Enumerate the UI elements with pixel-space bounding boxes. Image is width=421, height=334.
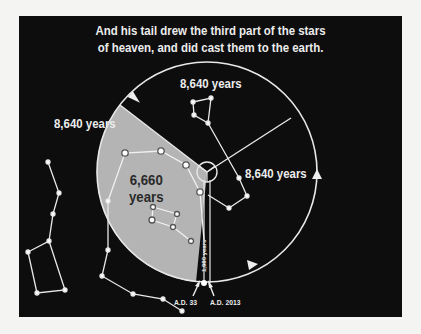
label-gap-years: 1,980 years [201,240,207,272]
shaded-number: 6,660 [129,171,164,188]
shaded-unit: years [129,188,164,205]
scripture-caption: And his tail drew the third part of the … [42,22,379,56]
arrow-bottom-right-icon [247,260,258,270]
label-ad-2013: A.D. 2013 [210,298,240,307]
label-right-years: 8,640 years [245,166,307,181]
radius-right [207,118,291,172]
caption-line-2: of heaven, and did cast them to the eart… [42,39,379,56]
label-top-years: 8,640 years [180,76,242,91]
caption-line-1: And his tail drew the third part of the … [42,22,379,39]
label-shaded-years: 6,660 years [129,171,164,205]
arrow-right-icon [312,169,322,179]
label-ad-33: A.D. 33 [174,298,197,307]
constellation-left [26,160,67,295]
arrow-top-left-icon [127,90,140,105]
label-left-years: 8,640 years [54,116,116,131]
